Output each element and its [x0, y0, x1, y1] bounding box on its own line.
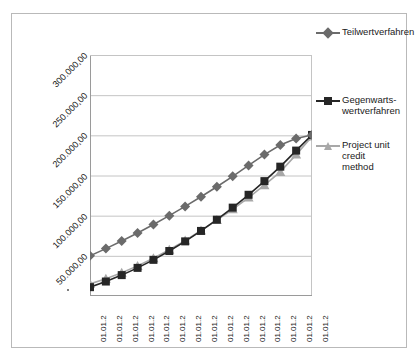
data-point-square — [245, 191, 253, 199]
x-axis-tick-label: 01.01.2 — [146, 315, 155, 342]
legend-entry[interactable]: Teilwertverfahren — [316, 26, 414, 39]
legend-entry[interactable]: Gegenwarts-wertverfahren — [316, 94, 400, 116]
data-point-diamond — [259, 150, 269, 160]
plot-svg — [90, 55, 312, 296]
x-axis-tick-label: 01.01.2 — [273, 315, 282, 342]
series-line — [90, 137, 312, 284]
data-point-square — [181, 237, 189, 245]
data-point-diamond — [196, 192, 206, 202]
legend-entry[interactable]: Project unit creditmethod — [316, 139, 402, 172]
series-1 — [90, 130, 312, 261]
series-2 — [90, 131, 312, 291]
plot-area — [90, 55, 312, 296]
data-point-diamond — [180, 201, 190, 211]
data-point-diamond — [133, 228, 143, 238]
data-point-diamond — [291, 134, 301, 144]
origin-dot-artifact — [67, 289, 69, 291]
data-point-diamond — [164, 211, 174, 221]
data-point-square — [260, 177, 268, 185]
data-point-square — [90, 283, 94, 291]
data-point-diamond — [212, 182, 222, 192]
data-point-square — [102, 278, 110, 286]
series-line — [90, 135, 312, 287]
series-3 — [90, 132, 312, 288]
x-axis-tick-label: 01.01.2 — [99, 315, 108, 342]
x-axis-tick-label: 01.01.2 — [210, 315, 219, 342]
data-point-square — [118, 271, 126, 279]
chart-container: 50.000,00100.000,00150.000,00200.000,002… — [0, 0, 418, 361]
data-point-square — [134, 264, 142, 272]
data-point-square — [197, 227, 205, 235]
legend-label: Project unit creditmethod — [340, 139, 402, 172]
x-axis-tick-label: 01.01.2 — [178, 315, 187, 342]
data-point-diamond — [117, 236, 127, 246]
x-axis-tick-label: 01.01.2 — [226, 315, 235, 342]
x-axis-tick-label: 01.01.2 — [289, 315, 298, 342]
data-point-diamond — [244, 160, 254, 170]
x-axis-tick-label: 01.01.2 — [194, 315, 203, 342]
data-point-diamond — [101, 244, 111, 254]
legend-label: Gegenwarts-wertverfahren — [340, 94, 400, 116]
legend-marker-diamond-icon — [316, 27, 340, 39]
x-axis-tick-label: 01.01.2 — [305, 315, 314, 342]
x-axis-tick-label: 01.01.2 — [115, 315, 124, 342]
x-axis-tick-label: 01.01.2 — [162, 315, 171, 342]
legend-marker-square-icon — [316, 95, 340, 107]
legend-marker-triangle-icon — [316, 140, 340, 152]
data-point-diamond — [275, 140, 285, 150]
data-point-diamond — [228, 171, 238, 181]
x-axis-tick-label: 01.01.2 — [242, 315, 251, 342]
data-point-square — [229, 204, 237, 212]
x-axis-tick-label: 01.01.2 — [131, 315, 140, 342]
data-point-square — [276, 163, 284, 171]
data-point-diamond — [148, 220, 158, 230]
legend-label: Teilwertverfahren — [340, 26, 414, 37]
data-point-square — [165, 247, 173, 255]
x-axis-tick-label: 01.01.2 — [257, 315, 266, 342]
data-point-square — [213, 216, 221, 224]
data-point-diamond — [90, 251, 95, 261]
data-point-square — [149, 256, 157, 264]
data-point-square — [292, 147, 300, 155]
x-axis-tick-label: 01.01.2 — [321, 315, 330, 342]
